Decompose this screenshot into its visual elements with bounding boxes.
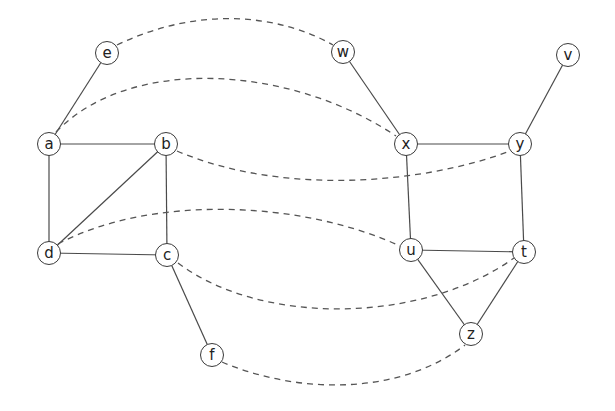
node-label: y: [516, 137, 525, 152]
dashed-edge-f-z: [222, 345, 465, 385]
node-d: d: [37, 241, 61, 265]
dashed-edge-e-w: [117, 19, 333, 45]
edge-d-c: [49, 253, 167, 255]
node-label: x: [402, 137, 411, 152]
node-b: b: [154, 132, 178, 156]
node-e: e: [95, 41, 119, 65]
edge-x-u: [406, 144, 411, 250]
edge-v-y: [520, 55, 568, 144]
node-label: z: [467, 327, 475, 342]
node-a: a: [37, 132, 61, 156]
dashed-edge-a-x: [56, 78, 396, 136]
dashed-edge-b-y: [177, 151, 510, 180]
node-x: x: [394, 132, 418, 156]
node-label: u: [406, 243, 416, 258]
edge-y-t: [520, 144, 524, 252]
graph-diagram: eabdcfwvxyutz: [0, 0, 615, 411]
edge-c-f: [167, 255, 212, 355]
node-z: z: [459, 322, 483, 346]
node-label: v: [564, 48, 573, 63]
graph-edges: [0, 0, 615, 411]
edge-t-z: [471, 252, 524, 334]
node-v: v: [556, 43, 580, 67]
edge-u-z: [411, 250, 471, 334]
edge-u-t: [411, 250, 524, 252]
dashed-edge-c-t: [178, 258, 514, 309]
edge-b-c: [166, 144, 167, 255]
node-y: y: [508, 132, 532, 156]
node-w: w: [331, 40, 355, 64]
node-f: f: [200, 343, 224, 367]
node-label: w: [337, 45, 349, 60]
dashed-edge-d-u: [58, 209, 400, 246]
node-label: b: [161, 137, 171, 152]
node-label: f: [209, 348, 214, 363]
edge-w-x: [343, 52, 406, 144]
node-label: t: [521, 245, 527, 260]
node-t: t: [512, 240, 536, 264]
node-label: e: [102, 46, 111, 61]
edge-b-d: [49, 144, 166, 253]
node-c: c: [155, 243, 179, 267]
node-label: d: [44, 246, 54, 261]
node-label: c: [163, 248, 171, 263]
node-u: u: [399, 238, 423, 262]
node-label: a: [44, 137, 53, 152]
